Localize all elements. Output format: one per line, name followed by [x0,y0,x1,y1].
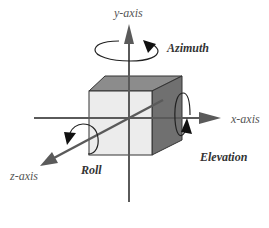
azimuth-label: Azimuth [166,41,209,55]
elevation-label: Elevation [199,150,248,164]
roll-label: Roll [80,163,102,177]
z-axis-label: z-axis [9,169,38,183]
rotation-axes-diagram: y-axis Azimuth x-axis z-axis Roll Elevat… [0,0,269,228]
x-axis-label: x-axis [230,112,260,126]
y-axis-label: y-axis [113,6,143,20]
